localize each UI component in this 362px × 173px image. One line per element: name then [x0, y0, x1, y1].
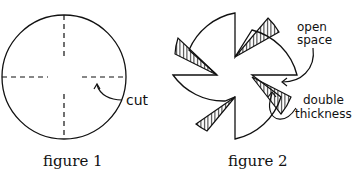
diagram: cut figure 1 open space double thickness… [0, 0, 362, 173]
figure-2: open space double thickness figure 2 [173, 13, 352, 170]
figure-1: cut figure 1 [2, 15, 149, 170]
double-thickness-label-line1: double [303, 93, 344, 107]
figure-1-caption: figure 1 [43, 152, 103, 170]
cut-arrow-icon [97, 85, 122, 100]
double-thickness-label-line2: thickness [295, 107, 352, 121]
open-space-label-line1: open [297, 20, 327, 34]
figures-svg: cut figure 1 open space double thickness… [0, 0, 362, 173]
cut-label: cut [126, 92, 149, 108]
figure-2-caption: figure 2 [228, 152, 288, 170]
open-space-label-line2: space [297, 33, 332, 47]
